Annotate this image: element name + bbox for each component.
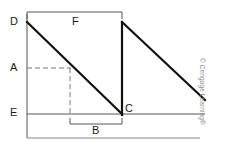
span-label-b: B <box>92 125 99 136</box>
level-label-a: A <box>10 62 17 73</box>
span-label-f: F <box>72 16 79 27</box>
depletion-line-cycle-2 <box>122 22 205 100</box>
depletion-line-cycle-1 <box>27 22 122 114</box>
figure-canvas <box>0 0 226 151</box>
level-label-e: E <box>10 107 17 118</box>
level-label-d: D <box>10 16 18 27</box>
copyright-credit: © Cengage Learning® <box>199 58 206 138</box>
point-label-c: C <box>125 103 133 114</box>
sawtooth-inventory-figure: D A E C F B © Cengage Learning® <box>0 0 226 151</box>
